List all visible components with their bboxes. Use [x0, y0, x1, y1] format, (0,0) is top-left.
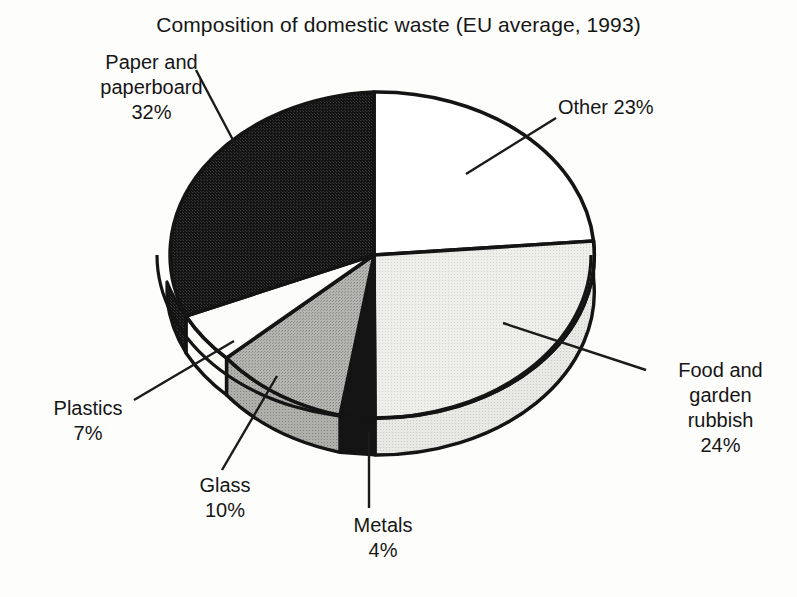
slice-label-other: Other 23% — [558, 95, 748, 120]
slice-label-paper: Paper and paperboard 32% — [44, 50, 259, 125]
pie-group — [134, 70, 646, 508]
pie-slice-food — [374, 241, 594, 418]
slice-label-glass: Glass 10% — [160, 473, 290, 523]
slice-label-metals: Metals 4% — [318, 513, 448, 563]
slice-label-food: Food and garden rubbish 24% — [648, 358, 793, 458]
slice-label-plastics: Plastics 7% — [18, 396, 158, 446]
chart-page: Composition of domestic waste (EU averag… — [0, 0, 797, 597]
